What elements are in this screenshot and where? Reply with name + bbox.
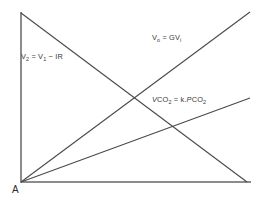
line-diagram-svg bbox=[0, 0, 258, 208]
shallow-rising-line-vco2 bbox=[21, 98, 250, 182]
label-v2-sub2: 2 bbox=[26, 56, 29, 62]
label-v2-sub1: 1 bbox=[43, 56, 46, 62]
steep-rising-line-vo bbox=[21, 12, 250, 182]
label-vco2-sub2b: 2 bbox=[203, 99, 206, 105]
label-shallow-rising-line: VCO2 = k.PCO2 bbox=[152, 96, 206, 103]
figure-canvas: V2 = V1 − IR Vo = GVi VCO2 = k.PCO2 A bbox=[0, 0, 258, 208]
label-descending-line: V2 = V1 − IR bbox=[21, 53, 63, 60]
label-vco2-sub2a: 2 bbox=[168, 99, 171, 105]
label-vco2-co2: CO bbox=[192, 95, 203, 104]
label-vco2-co: CO bbox=[157, 95, 168, 104]
label-v2-equals: = V bbox=[29, 52, 43, 61]
label-v2-ir: − IR bbox=[46, 52, 63, 61]
origin-label-a: A bbox=[12, 185, 19, 195]
label-steep-rising-line: Vo = GVi bbox=[152, 34, 181, 41]
label-vo-subo: o bbox=[157, 37, 160, 43]
label-vo-equals: = GV bbox=[160, 33, 180, 42]
label-vco2-equals: = k. bbox=[172, 95, 187, 104]
